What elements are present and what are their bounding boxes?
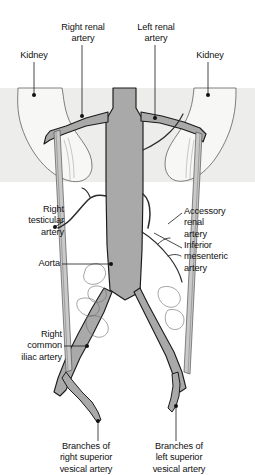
label-right-renal-artery: Right renal artery	[48, 22, 118, 45]
label-right-common-iliac-artery: Right common iliac artery	[2, 329, 62, 363]
label-right-testicular-artery: Right testicular artery	[2, 204, 64, 238]
label-kidney-left: Kidney	[180, 50, 240, 61]
right-superior-vesical-branch-vessel	[62, 372, 101, 422]
label-left-renal-artery: Left renal artery	[124, 22, 188, 45]
label-kidney-right: Kidney	[4, 50, 64, 61]
inferior-mesenteric-twig-b	[168, 255, 181, 257]
label-aorta: Aorta	[2, 258, 60, 269]
right-testicular-artery-twig	[82, 188, 90, 197]
aorta-trunk	[106, 88, 143, 300]
label-inferior-mesenteric-artery: Inferior mesenteric artery	[184, 240, 255, 274]
right-testicular-artery-vessel	[58, 195, 106, 228]
label-branches-right-superior-vesical-artery: Branches of right superior vesical arter…	[40, 441, 132, 475]
inferior-mesenteric-artery-vessel	[142, 232, 182, 282]
label-branches-left-superior-vesical-artery: Branches of left superior vesical artery	[134, 441, 224, 475]
left-testicular-artery-vessel	[143, 194, 150, 228]
label-accessory-renal-artery: Accessory renal artery	[184, 206, 254, 240]
